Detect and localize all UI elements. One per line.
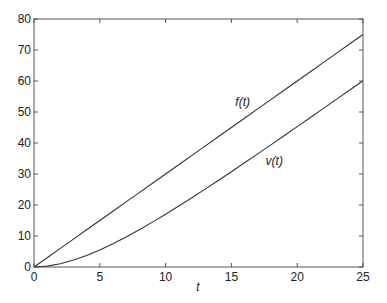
f-series-label: f(t) [235,95,250,109]
x-tick-label: 10 [159,270,173,284]
y-tick-label: 80 [18,12,32,26]
y-tick-label: 70 [18,43,32,57]
x-tick-label: 0 [31,270,38,284]
x-tick-label: 15 [225,270,239,284]
axes-box [34,19,363,267]
axis-ticks: 051015202501020304050607080 [18,12,370,284]
y-tick-label: 40 [18,136,32,150]
plot-lines [34,35,363,268]
line-chart: 051015202501020304050607080 t f(t) v(t) [0,0,387,303]
y-tick-label: 60 [18,74,32,88]
y-tick-label: 0 [24,260,31,274]
x-tick-label: 20 [291,270,305,284]
x-axis-label: t [196,280,200,294]
y-tick-label: 10 [18,229,32,243]
x-tick-label: 25 [356,270,370,284]
x-tick-label: 5 [96,270,103,284]
y-tick-label: 50 [18,105,32,119]
series-line-f [34,35,363,268]
v-series-label: v(t) [266,154,283,168]
y-tick-label: 30 [18,167,32,181]
series-line-v [34,81,363,267]
y-tick-label: 20 [18,198,32,212]
